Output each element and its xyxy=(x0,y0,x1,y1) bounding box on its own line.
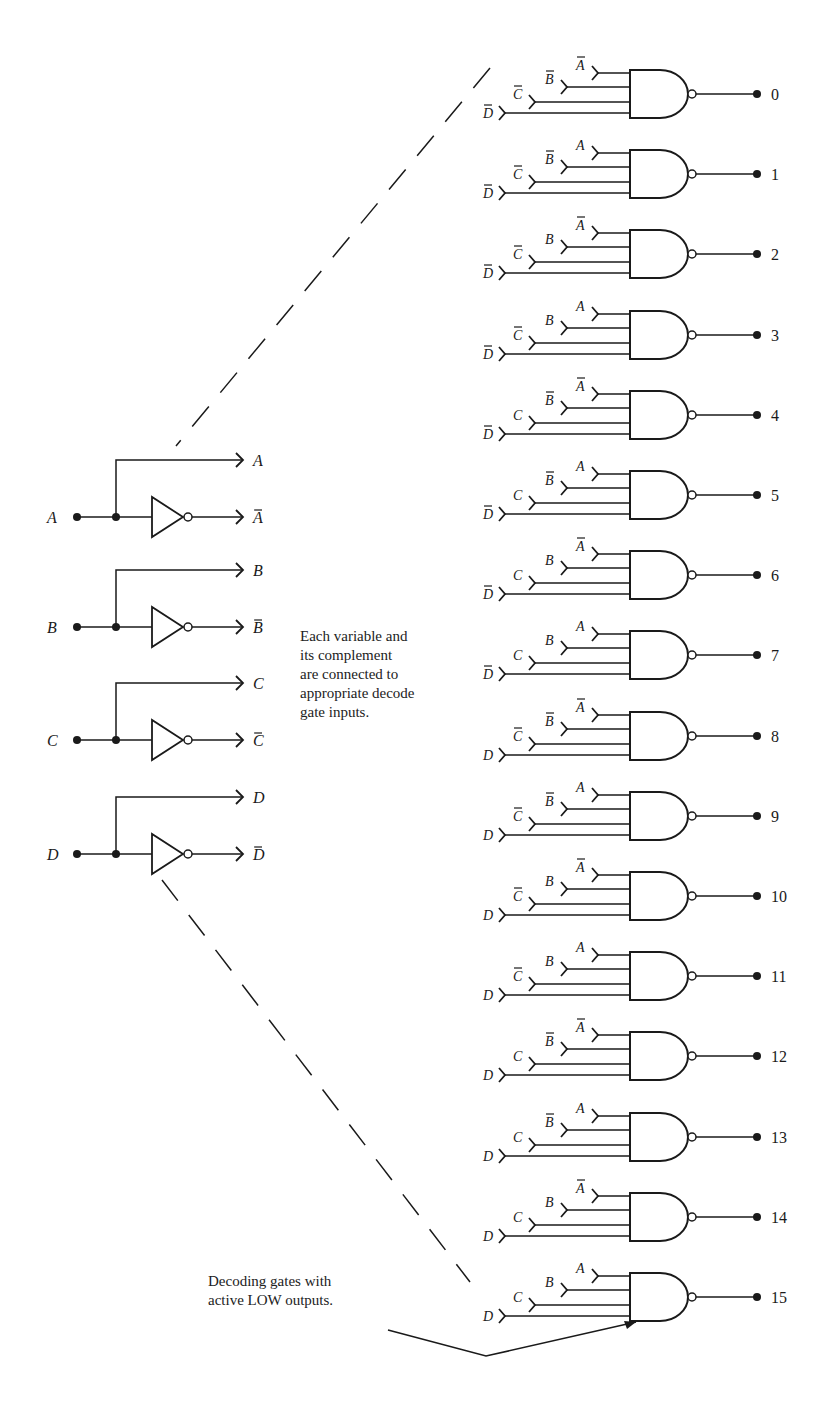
inversion-bubble-icon xyxy=(688,892,696,900)
connector-chevron-icon xyxy=(529,656,535,670)
gate-input-label-c: C xyxy=(513,408,523,423)
gate-input-label-a: A xyxy=(575,538,585,554)
label-text: C xyxy=(513,328,523,343)
label-text: A xyxy=(575,940,585,955)
pointer-line xyxy=(388,1322,636,1356)
connector-chevron-icon xyxy=(499,828,505,842)
label-text: D xyxy=(482,1309,493,1324)
label-text: C xyxy=(513,648,523,663)
gate-input-label-b: B xyxy=(545,553,554,568)
true-output-label: B xyxy=(253,562,263,579)
gate-input-label-c: C xyxy=(513,1049,523,1064)
decode-gate-14: 14ABCD xyxy=(482,1180,787,1244)
connection-note-line: its complement xyxy=(300,646,415,665)
decode-gate-4: 4ABCD xyxy=(482,378,779,442)
output-terminal-dot xyxy=(753,491,761,499)
inversion-bubble-icon xyxy=(688,1293,696,1301)
inverter-a: AAA xyxy=(46,452,263,537)
gate-input-label-d: D xyxy=(482,185,493,201)
output-terminal-dot xyxy=(753,571,761,579)
gates-note-line: active LOW outputs. xyxy=(208,1291,333,1310)
inverter-c: CCC xyxy=(47,675,264,760)
connector-chevron-icon xyxy=(529,977,535,991)
connector-chevron-icon xyxy=(529,416,535,430)
inverter-triangle-icon xyxy=(152,607,183,647)
label-text: C xyxy=(513,1049,523,1064)
connector-chevron-icon xyxy=(592,307,598,321)
gate-input-label-a: A xyxy=(575,1019,585,1035)
gate-input-label-a: A xyxy=(575,1261,585,1276)
gate-input-label-c: C xyxy=(513,808,523,824)
decoding-gates: 0ABCD1ABCD2ABCD3ABCD4ABCD5ABCD6ABCD7ABCD… xyxy=(482,57,787,1324)
label-text: A xyxy=(575,218,585,233)
label-text: A xyxy=(575,1020,585,1035)
connector-chevron-icon xyxy=(529,496,535,510)
connection-note-line: are connected to xyxy=(300,665,415,684)
label-text: A xyxy=(575,1261,585,1276)
input-label: D xyxy=(46,846,59,863)
gate-input-label-d: D xyxy=(482,426,493,442)
label-text: D xyxy=(482,667,493,682)
label-text: C xyxy=(513,87,523,102)
connector-chevron-icon xyxy=(499,186,505,200)
connector-chevron-icon xyxy=(529,897,535,911)
gates-note: Decoding gates with active LOW outputs. xyxy=(208,1272,333,1310)
output-terminal-dot xyxy=(753,1213,761,1221)
gate-input-label-a: A xyxy=(575,217,585,233)
output-number: 7 xyxy=(771,647,779,664)
connector-chevron-icon xyxy=(499,748,505,762)
label-text: B xyxy=(545,232,554,247)
true-output-wire xyxy=(116,683,242,740)
label-text: C xyxy=(513,167,523,182)
label-text: B xyxy=(253,619,263,636)
gate-input-label-c: C xyxy=(513,1130,523,1145)
complement-output-label: C xyxy=(253,732,264,749)
inverter-triangle-icon xyxy=(152,834,183,874)
gate-input-label-d: D xyxy=(482,506,493,522)
label-text: D xyxy=(482,186,493,201)
gate-input-label-c: C xyxy=(513,488,523,503)
output-terminal-dot xyxy=(753,170,761,178)
nand-gate-icon xyxy=(630,391,688,439)
label-text: B xyxy=(545,152,554,167)
arrowhead-icon xyxy=(624,1321,636,1329)
label-text: C xyxy=(513,889,523,904)
gate-input-label-d: D xyxy=(482,1068,493,1083)
gate-input-label-d: D xyxy=(482,828,493,843)
output-terminal-dot xyxy=(753,812,761,820)
connector-chevron-icon xyxy=(529,1298,535,1312)
decode-gate-1: 1ABCD xyxy=(482,138,779,201)
label-text: B xyxy=(545,633,554,648)
label-text: A xyxy=(575,860,585,875)
label-text: C xyxy=(513,969,523,984)
gate-input-label-d: D xyxy=(482,586,493,602)
label-text: A xyxy=(575,459,585,474)
label-text: A xyxy=(575,379,585,394)
input-inverter-section: AAABBBCCCDDD xyxy=(46,452,265,874)
label-text: A xyxy=(575,539,585,554)
gate-input-label-a: A xyxy=(575,699,585,715)
output-number: 10 xyxy=(771,888,787,905)
label-text: B xyxy=(253,562,263,579)
inversion-bubble-icon xyxy=(688,1133,696,1141)
connector-chevron-icon xyxy=(529,255,535,269)
connector-chevron-icon xyxy=(529,1138,535,1152)
label-text: A xyxy=(575,780,585,795)
inversion-bubble-icon xyxy=(688,491,696,499)
connector-chevron-icon xyxy=(561,401,567,415)
label-text: D xyxy=(482,266,493,281)
output-number: 3 xyxy=(771,327,779,344)
complement-output-label: A xyxy=(252,509,263,526)
inverter-triangle-icon xyxy=(152,720,183,760)
inversion-bubble-icon xyxy=(688,651,696,659)
nand-gate-icon xyxy=(630,1193,688,1241)
decode-gate-6: 6ABCD xyxy=(482,538,779,602)
inversion-bubble-icon xyxy=(688,1052,696,1060)
nand-gate-icon xyxy=(630,952,688,1000)
output-number: 11 xyxy=(771,968,786,985)
connector-chevron-icon xyxy=(592,868,598,882)
gate-input-label-a: A xyxy=(575,619,585,634)
label-text: D xyxy=(482,748,493,763)
output-terminal-dot xyxy=(753,972,761,980)
gate-input-label-a: A xyxy=(575,1180,585,1196)
